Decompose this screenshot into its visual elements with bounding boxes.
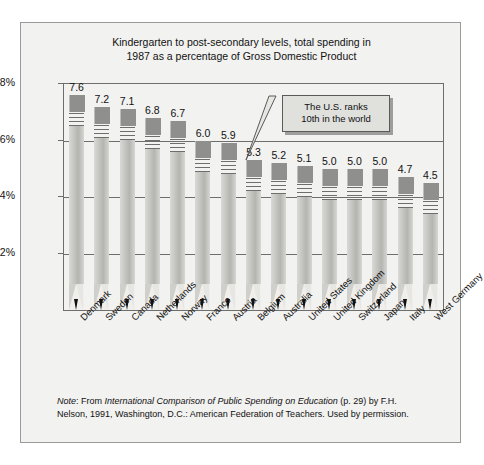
pencil-bands [271, 181, 286, 194]
pencil-shaft [145, 149, 160, 284]
pencil-ferrule [372, 169, 388, 186]
annotation-line-2: 10th in the world [287, 113, 385, 125]
pencil-shaft [69, 126, 84, 284]
pencil-shaft [322, 200, 337, 284]
pencil-ferrule [69, 95, 85, 112]
pencil-shaft [347, 200, 362, 284]
pencil-ferrule [398, 177, 414, 194]
pencil-ferrule [322, 169, 338, 186]
bar-pencil: 4.7 [398, 177, 413, 310]
pencil-bands [195, 159, 210, 172]
bar-pencil: 7.2 [94, 107, 109, 310]
bar-value-label: 5.1 [291, 152, 318, 164]
pencil-ferrule [120, 109, 136, 126]
bar-value-label: 5.0 [366, 155, 393, 167]
pencil-ferrule [170, 121, 186, 138]
bar-value-label: 5.2 [265, 149, 292, 161]
pencil-shaft [221, 174, 236, 284]
bar-value-label: 6.0 [189, 127, 216, 139]
annotation-callout: The U.S. ranks 10th in the world [282, 95, 390, 132]
pencil-bands [246, 178, 261, 191]
bar-value-label: 6.8 [139, 104, 166, 116]
pencil-shaft [120, 140, 135, 284]
pencil-bands [297, 184, 312, 197]
bar-pencil: 6.7 [170, 121, 185, 310]
bar-value-label: 5.0 [341, 155, 368, 167]
footnote-text-part-1: : From [76, 396, 105, 406]
bar-pencil: 7.1 [120, 109, 135, 310]
pencil-shaft [271, 194, 286, 284]
y-axis-tick-label: 4% [0, 189, 15, 201]
pencil-shaft [398, 208, 413, 284]
annotation-line-1: The U.S. ranks [287, 101, 385, 113]
pencil-ferrule [94, 107, 110, 124]
bar-value-label: 7.1 [114, 95, 141, 107]
pencil-ferrule [246, 160, 262, 177]
chart-figure: Kindergarten to post-secondary levels, t… [20, 22, 461, 443]
pencil-bands [398, 195, 413, 208]
bar-pencil: 5.2 [271, 163, 286, 310]
bar-value-label: 7.6 [63, 81, 90, 93]
pencil-ferrule [297, 166, 313, 183]
pencil-shaft [94, 138, 109, 284]
bar-pencil: 5.9 [221, 143, 236, 310]
pencil-bands [423, 201, 438, 214]
pencil-ferrule [195, 141, 211, 158]
bar-value-label: 7.2 [88, 93, 115, 105]
bar-pencil: 6.8 [145, 118, 160, 310]
bar-value-label: 5.9 [215, 129, 242, 141]
footnote-note-label: Note [57, 396, 76, 406]
pencil-shaft [423, 214, 438, 284]
bar-pencil: 5.1 [297, 166, 312, 310]
source-footnote: Note: From International Comparison of P… [57, 395, 429, 420]
pencil-shaft [195, 172, 210, 285]
pencil-ferrule [347, 169, 363, 186]
chart-title-line-1: Kindergarten to post-secondary levels, t… [21, 35, 462, 49]
pencil-bands [347, 187, 362, 200]
pencil-ferrule [271, 163, 287, 180]
pencil-bands [69, 113, 84, 126]
pencil-tip-icon [428, 299, 432, 310]
pencil-bands [94, 125, 109, 138]
pencil-ferrule [221, 143, 237, 160]
footnote-source-title: International Comparison of Public Spend… [105, 396, 338, 406]
pencil-bands [322, 187, 337, 200]
bar-pencil: 7.6 [69, 95, 84, 310]
bar-value-label: 4.5 [417, 169, 444, 181]
pencil-tip-icon [74, 299, 78, 310]
bar-pencil: 5.3 [246, 160, 261, 310]
chart-title: Kindergarten to post-secondary levels, t… [21, 35, 462, 63]
bar-value-label: 6.7 [164, 107, 191, 119]
y-axis-tick-label: 8% [0, 76, 15, 88]
pencil-bands [145, 136, 160, 149]
bar-value-label: 5.0 [316, 155, 343, 167]
pencil-shaft [297, 197, 312, 284]
chart-title-line-2: 1987 as a percentage of Gross Domestic P… [21, 49, 462, 63]
pencil-shaft [246, 191, 261, 284]
y-axis-tick-label: 6% [0, 133, 15, 145]
pencil-bands [221, 161, 236, 174]
y-axis-tick-label: 2% [0, 246, 15, 258]
bar-value-label: 5.3 [240, 146, 267, 158]
pencil-bands [170, 139, 185, 152]
pencil-bands [372, 187, 387, 200]
pencil-bands [120, 127, 135, 140]
pencil-ferrule [423, 183, 439, 200]
pencil-shaft [170, 152, 185, 284]
bar-value-label: 4.7 [392, 163, 419, 175]
pencil-ferrule [145, 118, 161, 135]
bar-pencil: 4.5 [423, 183, 438, 310]
bar-pencil: 6.0 [195, 141, 210, 311]
